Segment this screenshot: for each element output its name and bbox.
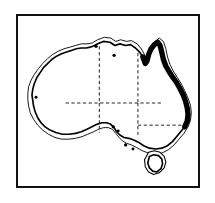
figure-container: Australia — [0, 0, 215, 203]
marker-north-2 — [112, 54, 115, 57]
marker-south-2 — [117, 129, 120, 132]
tasmania — [148, 155, 163, 172]
marker-south-3 — [124, 143, 127, 146]
marker-west-1 — [35, 96, 38, 99]
marker-south-1 — [112, 125, 115, 128]
map-frame — [16, 14, 200, 188]
australia-map — [18, 16, 202, 190]
marker-tas-1 — [132, 148, 135, 151]
marker-north-1 — [94, 45, 97, 48]
